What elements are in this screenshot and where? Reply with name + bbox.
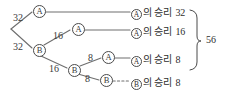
edge-label-b1-to-a2: 16 [53, 30, 63, 41]
edge-label-b2-to-b3: 8 [85, 73, 90, 84]
edge-label-root-to-b1: 32 [13, 41, 23, 52]
outcome-row-1: A의 승리 32 [131, 4, 185, 20]
outcome-text-2: 의 승리 [143, 26, 173, 37]
brace-total-label: 56 [206, 34, 216, 45]
tree-node-a1: A [33, 5, 46, 18]
tree-node-b3: B [100, 74, 113, 87]
edge-label-root-to-a1: 32 [13, 12, 23, 23]
outcome-count-4: 8 [175, 77, 180, 88]
outcome-count-2: 16 [175, 26, 185, 37]
edge-label-b1-to-b2: 16 [49, 63, 59, 74]
tree-node-a2: A [72, 23, 85, 36]
tree-node-a3: A [102, 51, 115, 64]
outcome-row-2: A의 승리 16 [131, 23, 185, 39]
outcome-row-3: A의 승리 8 [131, 51, 180, 67]
outcome-count-1: 32 [175, 7, 185, 18]
outcome-text-4: 의 승리 [143, 77, 173, 88]
outcome-mark-b-4: B [131, 79, 142, 90]
outcome-row-4: B의 승리 8 [131, 74, 180, 90]
tree-node-b2: B [68, 64, 81, 77]
outcome-count-3: 8 [175, 54, 180, 65]
summary-brace [190, 10, 201, 70]
tree-node-b1: B [33, 44, 46, 57]
outcome-mark-a-1: A [131, 9, 142, 20]
outcome-text-3: 의 승리 [143, 54, 173, 65]
outcome-mark-a-3: A [131, 56, 142, 67]
outcome-text-1: 의 승리 [143, 7, 173, 18]
edge-label-b2-to-a3: 8 [88, 52, 93, 63]
outcome-mark-a-2: A [131, 28, 142, 39]
game-tree-diagram: 32 32 16 16 8 8 A B A B A B A의 승리 32 A의 … [0, 0, 226, 94]
